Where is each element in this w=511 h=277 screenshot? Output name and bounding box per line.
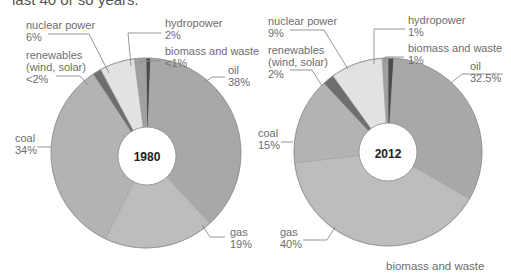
label-gas-2012: gas 40% [280,226,302,250]
label-value: 40% [280,238,302,250]
label-value: <2% [26,73,86,85]
label-name-2: (wind, solar) [26,61,86,73]
label-coal-2012: coal 15% [258,127,280,151]
label-name: renewables [268,44,328,56]
label-name: coal [15,132,37,144]
label-name: gas [280,226,302,238]
label-name: gas [230,226,252,238]
label-oil-1980: oil 38% [228,64,250,88]
year-label-1980: 1980 [134,150,161,164]
label-renewables-1980: renewables (wind, solar) <2% [26,49,86,85]
label-hydropower-1980: hydropower 2% [165,17,222,41]
label-value: 2% [165,29,222,41]
label-name: biomass and waste [408,42,502,54]
label-value: 32.5% [470,72,501,84]
label-value: 19% [230,238,252,250]
label-coal-1980: coal 34% [15,132,37,156]
label-name: biomass and waste [165,45,259,57]
label-gas-1980: gas 19% [230,226,252,250]
label-name: nuclear power [26,19,95,31]
label-name-2: (wind, solar) [268,56,328,68]
label-name: hydropower [165,17,222,29]
label-name: oil [470,60,501,72]
label-name: renewables [26,49,86,61]
label-name: nuclear power [268,15,337,27]
label-name: coal [258,127,280,139]
label-value: 6% [26,31,95,43]
label-value: 34% [15,144,37,156]
label-value: 38% [228,76,250,88]
year-label-2012: 2012 [375,147,402,161]
label-name: oil [228,64,250,76]
label-oil-2012: oil 32.5% [470,60,501,84]
label-value: 2% [268,68,328,80]
leader-gas-2012 [303,227,335,240]
bottom-caption: biomass and waste [386,260,484,272]
label-value: 1% [408,26,465,38]
label-value: 15% [258,139,280,151]
label-value: 9% [268,27,337,39]
label-hydropower-2012: hydropower 1% [408,14,465,38]
label-name: hydropower [408,14,465,26]
label-nuclear-2012: nuclear power 9% [268,15,337,39]
label-renewables-2012: renewables (wind, solar) 2% [268,44,328,80]
label-nuclear-1980: nuclear power 6% [26,19,95,43]
